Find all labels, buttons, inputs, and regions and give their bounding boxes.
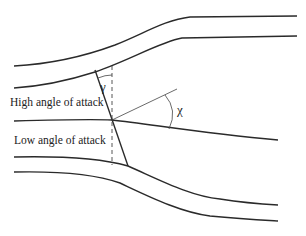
- flow-direction-line: [112, 89, 177, 120]
- lower-curve-1: [14, 157, 278, 205]
- chi-arc: [165, 95, 173, 129]
- high-angle-label: High angle of attack: [10, 96, 104, 109]
- gamma-arc: [98, 75, 112, 78]
- gamma-label: γ: [99, 79, 106, 94]
- upper-curve-1: [14, 16, 297, 66]
- upper-curve-2: [14, 36, 297, 88]
- chi-label: χ: [176, 102, 183, 117]
- airfoil-cascade-diagram: γ χ High angle of attack Low angle of at…: [0, 0, 306, 236]
- lower-curve-2: [14, 172, 278, 221]
- low-angle-label: Low angle of attack: [14, 134, 106, 147]
